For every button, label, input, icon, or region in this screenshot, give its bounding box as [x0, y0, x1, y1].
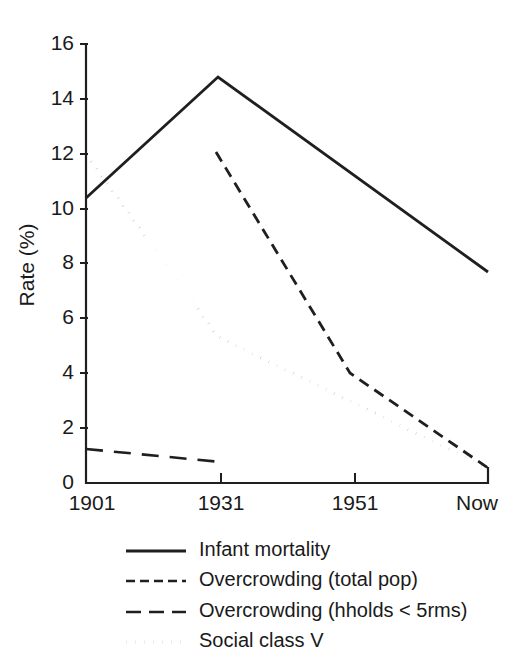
x-tick-label-1931: 1931: [198, 491, 245, 514]
x-tick-marks: [221, 473, 355, 483]
legend-label-overcrowding-total-pop: Overcrowding (total pop): [199, 568, 418, 590]
series-overcrowding-total-pop: [216, 152, 488, 468]
x-tick-label-1901: 1901: [69, 491, 116, 514]
y-tick-label-12: 12: [51, 141, 74, 164]
x-tick-labels: 1901 1931 1951 Now: [69, 491, 499, 514]
series-infant-mortality: [86, 77, 488, 272]
y-tick-labels: 0 2 4 6 8 10 12 14 16: [51, 31, 75, 493]
y-tick-label-4: 4: [62, 360, 74, 383]
x-tick-label-now: Now: [456, 491, 499, 514]
chart-plot-area: Rate (%) 0 2 4 6 8 10 12 14 16: [0, 0, 527, 530]
y-tick-label-6: 6: [62, 305, 74, 328]
legend-item-overcrowding-hholds: Overcrowding (hholds < 5rms): [126, 599, 467, 621]
figure-container: Rate (%) 0 2 4 6 8 10 12 14 16: [0, 0, 527, 666]
y-tick-label-10: 10: [51, 196, 74, 219]
y-tick-label-14: 14: [51, 86, 75, 109]
y-tick-label-16: 16: [51, 31, 74, 54]
series-social-class-v: [86, 154, 488, 468]
chart-legend: Infant mortality Overcrowding (total pop…: [0, 530, 527, 666]
y-tick-label-0: 0: [62, 470, 74, 493]
legend-item-overcrowding-total-pop: Overcrowding (total pop): [126, 568, 418, 590]
line-chart: Rate (%) 0 2 4 6 8 10 12 14 16: [0, 0, 527, 530]
x-tick-label-1951: 1951: [332, 491, 379, 514]
axis-spines: [86, 44, 488, 483]
y-tick-label-2: 2: [62, 415, 74, 438]
y-tick-label-8: 8: [62, 250, 74, 273]
legend-item-social-class-v: Social class V: [126, 629, 324, 651]
y-axis-title: Rate (%): [15, 224, 38, 307]
series-overcrowding-hholds: [86, 449, 221, 462]
legend-label-social-class-v: Social class V: [199, 629, 324, 651]
legend-label-infant-mortality: Infant mortality: [199, 538, 330, 560]
legend-label-overcrowding-hholds: Overcrowding (hholds < 5rms): [199, 599, 467, 621]
legend-item-infant-mortality: Infant mortality: [126, 538, 330, 560]
legend-svg: Infant mortality Overcrowding (total pop…: [0, 530, 527, 666]
